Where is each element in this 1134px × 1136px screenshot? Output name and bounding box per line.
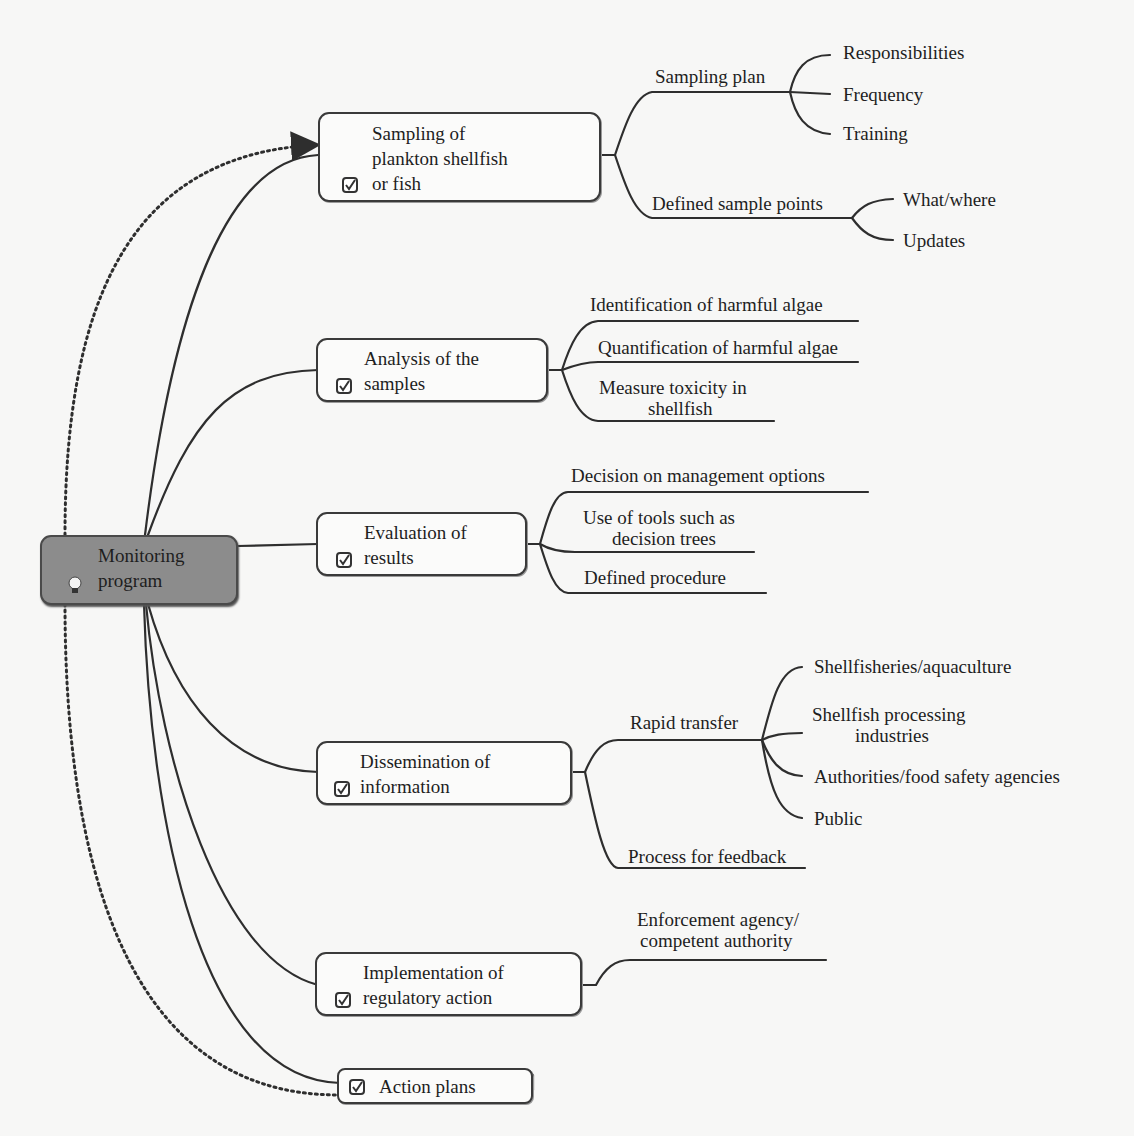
root-node-monitoring-program[interactable]: Monitoring program xyxy=(40,535,238,605)
branch-label: Dissemination of xyxy=(360,749,490,774)
checkbox-icon[interactable] xyxy=(342,177,358,193)
checkbox-icon[interactable] xyxy=(349,1079,365,1095)
subtopic-use-of-tools-line2[interactable]: decision trees xyxy=(612,528,716,550)
branch-node-dissemination[interactable]: Dissemination of information xyxy=(316,741,572,805)
subtopic-processing-line1[interactable]: Shellfish processing xyxy=(812,704,966,726)
subtopic-enforcement-line1[interactable]: Enforcement agency/ xyxy=(637,909,799,931)
subtopic-shellfisheries[interactable]: Shellfisheries/aquaculture xyxy=(814,656,1011,678)
root-label-line2: program xyxy=(98,568,162,593)
subtopic-process-feedback[interactable]: Process for feedback xyxy=(628,846,786,868)
link-root-implementation xyxy=(146,604,318,985)
subtopic-defined-procedure[interactable]: Defined procedure xyxy=(584,567,726,589)
subtopic-processing-line2[interactable]: industries xyxy=(855,725,929,747)
branch-node-analysis[interactable]: Analysis of the samples xyxy=(316,338,548,402)
relationship-action-to-root xyxy=(65,604,338,1095)
subtopic-decision-management[interactable]: Decision on management options xyxy=(571,465,825,487)
subtopic-public[interactable]: Public xyxy=(814,808,863,830)
link-root-evaluation xyxy=(238,544,318,546)
link-root-analysis xyxy=(148,370,318,535)
subtopic-rapid-transfer[interactable]: Rapid transfer xyxy=(630,712,738,734)
branch-node-sampling[interactable]: Sampling of plankton shellfish or fish xyxy=(318,112,601,202)
subtopic-authorities[interactable]: Authorities/food safety agencies xyxy=(814,766,1060,788)
checkbox-icon[interactable] xyxy=(336,378,352,394)
branch-label: samples xyxy=(364,371,425,396)
subtopic-responsibilities[interactable]: Responsibilities xyxy=(843,42,964,64)
subtopic-identification[interactable]: Identification of harmful algae xyxy=(590,294,823,316)
branch-label: regulatory action xyxy=(363,985,492,1010)
subtopic-what-where[interactable]: What/where xyxy=(903,189,996,211)
checkbox-icon[interactable] xyxy=(334,781,350,797)
link-root-action xyxy=(144,604,340,1083)
branch-label: or fish xyxy=(372,171,421,196)
relationship-root-to-sampling xyxy=(65,145,315,535)
subtopic-sampling-plan[interactable]: Sampling plan xyxy=(655,66,765,88)
branch-label: Evaluation of xyxy=(364,520,467,545)
root-label-line1: Monitoring xyxy=(98,543,185,568)
subtopic-use-of-tools-line1[interactable]: Use of tools such as xyxy=(583,507,735,529)
branch-label: plankton shellfish xyxy=(372,146,508,171)
branch-label: information xyxy=(360,774,450,799)
branch-label: Action plans xyxy=(379,1074,476,1099)
subtopic-defined-sample-points[interactable]: Defined sample points xyxy=(652,193,823,215)
subtopic-updates[interactable]: Updates xyxy=(903,230,965,252)
subtopic-quantification[interactable]: Quantification of harmful algae xyxy=(598,337,838,359)
branch-label: Sampling of xyxy=(372,121,465,146)
branch-label: results xyxy=(364,545,414,570)
branch-node-evaluation[interactable]: Evaluation of results xyxy=(316,512,527,576)
checkbox-icon[interactable] xyxy=(335,992,351,1008)
checkbox-icon[interactable] xyxy=(336,552,352,568)
subtopic-frequency[interactable]: Frequency xyxy=(843,84,923,106)
subtopic-measure-toxicity-line2[interactable]: shellfish xyxy=(648,398,712,420)
lightbulb-icon xyxy=(66,575,84,595)
link-root-dissemination xyxy=(148,604,318,772)
subtopic-measure-toxicity-line1[interactable]: Measure toxicity in xyxy=(599,377,747,399)
subtopic-enforcement-line2[interactable]: competent authority xyxy=(640,930,792,952)
branch-label: Analysis of the xyxy=(364,346,479,371)
branch-node-implementation[interactable]: Implementation of regulatory action xyxy=(315,952,582,1016)
branch-label: Implementation of xyxy=(363,960,504,985)
subtopic-training[interactable]: Training xyxy=(843,123,908,145)
branch-node-action-plans[interactable]: Action plans xyxy=(337,1068,533,1104)
